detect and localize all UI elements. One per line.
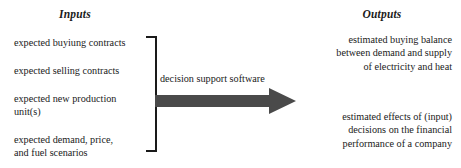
input-item-line: expected demand, price, bbox=[14, 133, 146, 146]
input-item-line: and fuel scenarios bbox=[14, 146, 146, 159]
inputs-heading: Inputs bbox=[0, 8, 150, 20]
input-item-line: expected new production bbox=[14, 92, 146, 105]
input-item-line: expected selling contracts bbox=[14, 64, 146, 77]
bracket-bottom-tick bbox=[146, 150, 157, 152]
input-item: expected new production unit(s) bbox=[14, 92, 146, 118]
output-line: estimated buying balance bbox=[272, 33, 452, 46]
input-item: expected buyiung contracts bbox=[14, 36, 146, 49]
output-block: estimated effects of (input) decisions o… bbox=[272, 110, 452, 150]
inputs-outputs-diagram: Inputs Outputs expected buyiung contract… bbox=[0, 0, 461, 168]
arrow-label: decision support software bbox=[160, 72, 265, 85]
output-line: of electricity and heat bbox=[272, 60, 452, 73]
input-item: expected demand, price, and fuel scenari… bbox=[14, 133, 146, 159]
output-block: estimated buying balance between demand … bbox=[272, 33, 452, 73]
output-line: performance of a company bbox=[272, 137, 452, 150]
output-line: between demand and supply bbox=[272, 46, 452, 59]
outputs-heading: Outputs bbox=[312, 8, 452, 20]
input-item-line: expected buyiung contracts bbox=[14, 36, 146, 49]
output-line: decisions on the financial bbox=[272, 123, 452, 136]
inputs-list: expected buyiung contracts expected sell… bbox=[14, 36, 146, 159]
input-item-line: unit(s) bbox=[14, 105, 146, 118]
output-line: estimated effects of (input) bbox=[272, 110, 452, 123]
input-item: expected selling contracts bbox=[14, 64, 146, 77]
